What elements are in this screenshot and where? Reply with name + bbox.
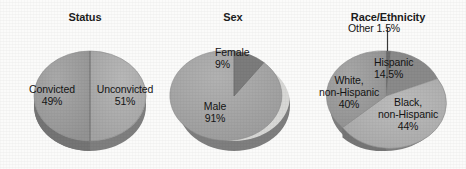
label-convicted-value: 49% [42,95,63,107]
label-white-non-hispanic: White, non-Hispanic 40% [306,74,392,110]
label-white-name-line2: non-Hispanic [319,86,379,98]
label-hispanic-name: Hispanic [374,56,413,68]
label-other: Other 1.5% [348,22,400,34]
label-male-value: 91% [205,112,226,124]
label-female-value: 9% [215,58,230,70]
pie-chart-figure: Status [0,0,466,169]
label-black-value: 44% [398,120,419,132]
label-convicted-name: Convicted [29,83,75,95]
label-female: Female 9% [215,46,279,70]
label-black-name-line1: Black, [394,96,422,108]
label-convicted: Convicted 49% [16,83,88,107]
chart-title-sex: Sex [163,11,303,23]
label-female-name: Female [215,46,249,58]
label-unconvicted: Unconvicted 51% [84,83,166,107]
label-male-name: Male [204,100,226,112]
label-unconvicted-name: Unconvicted [97,83,154,95]
chart-panel-status: Status [0,0,170,169]
label-white-value: 40% [339,98,360,110]
chart-title-status: Status [0,11,170,23]
chart-panel-race: Race/Ethnicity [310,0,466,169]
label-unconvicted-value: 51% [115,95,136,107]
label-male: Male 91% [185,100,245,124]
label-white-name-line1: White, [334,74,363,86]
chart-panel-sex: Sex Female 9% Mal [163,0,303,169]
